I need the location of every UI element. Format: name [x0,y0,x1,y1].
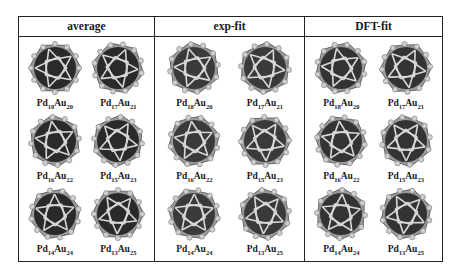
cluster-cell: Pd14Au24 [309,185,374,258]
cluster-cell: Pd14Au24 [23,185,87,258]
cluster-structure-image [165,39,223,97]
composition-label: Pd14Au24 [37,244,73,258]
composition-label: Pd14Au24 [176,244,212,258]
composition-label: Pd16Au22 [176,171,212,185]
cluster-cell: Pd16Au22 [23,112,87,185]
cluster-structure-image [312,112,370,170]
cluster-cell: Pd16Au22 [159,112,230,185]
composition-label: Pd18Au20 [37,98,73,112]
column-header: exp-fit [155,17,304,37]
cluster-cell: Pd13Au25 [230,185,301,258]
cluster-cell: Pd13Au25 [374,185,439,258]
cluster-cell: Pd18Au20 [309,39,374,112]
cluster-cell: Pd16Au22 [309,112,374,185]
composition-label: Pd16Au22 [37,171,73,185]
cluster-structure-image [26,112,84,170]
cluster-structure-image [89,185,147,243]
cluster-cell: Pd18Au20 [23,39,87,112]
cluster-structure-image [165,185,223,243]
cluster-cell: Pd18Au20 [159,39,230,112]
composition-label: Pd14Au24 [323,244,359,258]
cluster-structure-image [377,39,435,97]
cluster-structure-image [236,112,294,170]
cluster-structure-image [89,112,147,170]
composition-label: Pd17Au21 [100,98,136,112]
cluster-cell: Pd15Au23 [374,112,439,185]
column-exp-fit: exp-fit Pd18Au20 Pd17Au21 Pd16Au22 Pd15A… [154,17,304,261]
cluster-cell: Pd17Au21 [230,39,301,112]
cluster-structure-image [377,185,435,243]
cluster-cell: Pd15Au23 [87,112,151,185]
cluster-structure-image [236,185,294,243]
cluster-cell: Pd17Au21 [87,39,151,112]
cluster-structure-image [312,39,370,97]
cluster-structure-image [26,185,84,243]
cluster-structure-image [26,39,84,97]
column-header: DFT-fit [305,17,442,37]
composition-label: Pd15Au23 [247,171,283,185]
composition-label: Pd18Au20 [323,98,359,112]
composition-label: Pd13Au25 [388,244,424,258]
cluster-cell: Pd13Au25 [87,185,151,258]
composition-label: Pd13Au25 [100,244,136,258]
cluster-structure-image [89,39,147,97]
cluster-structure-image [165,112,223,170]
composition-label: Pd15Au23 [100,171,136,185]
column-header: average [19,17,154,37]
composition-label: Pd17Au21 [247,98,283,112]
cluster-structure-image [236,39,294,97]
cluster-cell: Pd14Au24 [159,185,230,258]
composition-label: Pd17Au21 [388,98,424,112]
composition-label: Pd13Au25 [247,244,283,258]
cluster-comparison-table: average Pd18Au20 Pd17Au21 Pd16Au22 Pd15A… [18,16,443,262]
composition-label: Pd15Au23 [388,171,424,185]
cluster-structure-image [377,112,435,170]
column-average: average Pd18Au20 Pd17Au21 Pd16Au22 Pd15A… [19,17,154,261]
cluster-structure-image [312,185,370,243]
column-dft-fit: DFT-fit Pd18Au20 Pd17Au21 Pd16Au22 Pd15A… [304,17,442,261]
composition-label: Pd16Au22 [323,171,359,185]
cluster-cell: Pd15Au23 [230,112,301,185]
cluster-cell: Pd17Au21 [374,39,439,112]
composition-label: Pd18Au20 [176,98,212,112]
